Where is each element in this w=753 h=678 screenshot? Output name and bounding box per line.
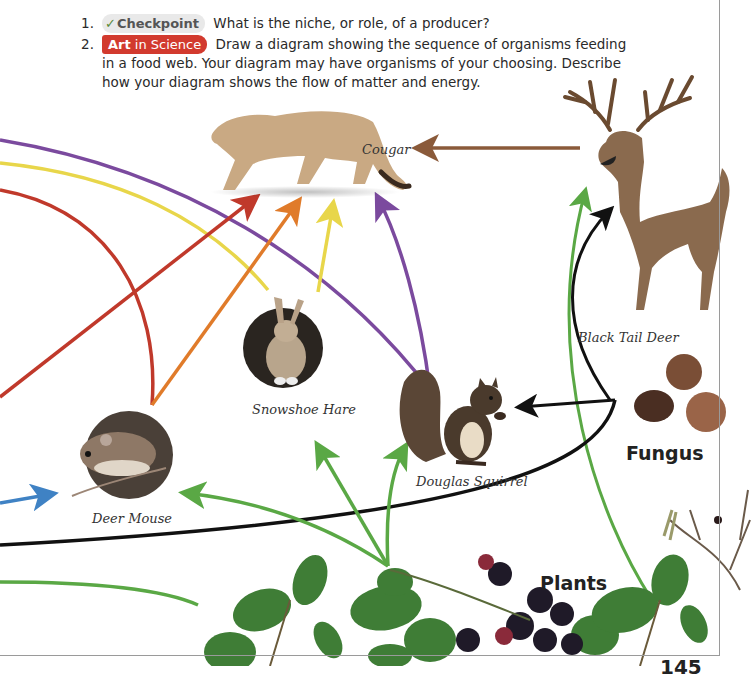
deer-mouse-image (66, 406, 178, 502)
page-number: 145 (660, 655, 702, 678)
douglas-squirrel-image (396, 342, 526, 470)
label-cougar: Cougar (362, 142, 410, 157)
label-douglas-squirrel: Douglas Squirrel (416, 474, 528, 489)
page-border-right (719, 0, 720, 655)
twig-image (660, 480, 753, 600)
label-fungus: Fungus (626, 442, 704, 464)
label-snowshoe-hare: Snowshoe Hare (252, 402, 356, 417)
snowshoe-hare-image (240, 295, 326, 391)
label-black-tail-deer: Black Tail Deer (578, 330, 679, 345)
page-border-bottom (0, 655, 720, 656)
black-tail-deer-image (560, 72, 740, 322)
fungus-image (632, 350, 728, 436)
label-plants: Plants (540, 572, 607, 594)
label-deer-mouse: Deer Mouse (92, 511, 172, 526)
